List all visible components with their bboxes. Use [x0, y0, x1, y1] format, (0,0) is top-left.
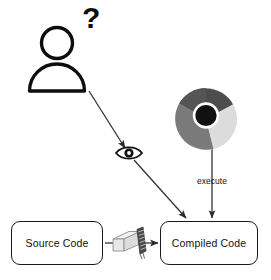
- diagram-canvas: ?: [0, 0, 271, 280]
- edge-eye-to-compiled-code: [134, 160, 186, 218]
- node-source-code[interactable]: Source Code: [11, 221, 103, 265]
- chrome-browser-icon: [175, 88, 237, 150]
- compiler-icon: [110, 221, 150, 261]
- question-mark-icon: ?: [82, 3, 100, 33]
- node-source-code-label: Source Code: [26, 237, 89, 249]
- node-compiled-code-label: Compiled Code: [172, 237, 246, 249]
- eye-icon: [114, 142, 144, 164]
- edge-person-to-eye: [89, 91, 125, 148]
- node-compiled-code[interactable]: Compiled Code: [160, 221, 258, 265]
- edge-label-execute: execute: [186, 176, 238, 186]
